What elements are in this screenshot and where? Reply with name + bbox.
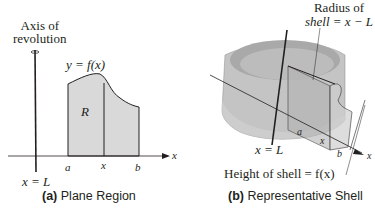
- curve-label: y = f(x): [66, 57, 105, 73]
- region-label: R: [81, 104, 89, 120]
- tick-x-b: x: [320, 135, 324, 146]
- tick-a-b: a: [297, 126, 302, 137]
- region-b: [330, 84, 352, 150]
- height-indicator: [350, 100, 365, 150]
- caption-a: (a) Plane Region: [42, 189, 136, 203]
- axis-equation: x = L: [22, 174, 50, 190]
- axis-of-revolution-label: Axis of revolution: [13, 19, 66, 45]
- axis-equation-b: x = L: [255, 142, 283, 158]
- tick-b-b: b: [337, 148, 342, 159]
- tick-a: a: [65, 161, 71, 173]
- tick-x: x: [101, 159, 106, 171]
- tick-b: b: [135, 161, 141, 173]
- radius-label: Radius of shell = x − L: [305, 1, 373, 29]
- x-axis-b-arrow-icon: [353, 149, 364, 155]
- x-axis-label-b: x: [367, 150, 371, 161]
- caption-b: (b) Representative Shell: [228, 189, 363, 203]
- axis-of-revolution-a: [35, 50, 36, 172]
- x-axis-label: x: [172, 149, 177, 161]
- x-axis-arrow-icon: [162, 153, 170, 159]
- height-label: Height of shell = f(x): [224, 166, 335, 182]
